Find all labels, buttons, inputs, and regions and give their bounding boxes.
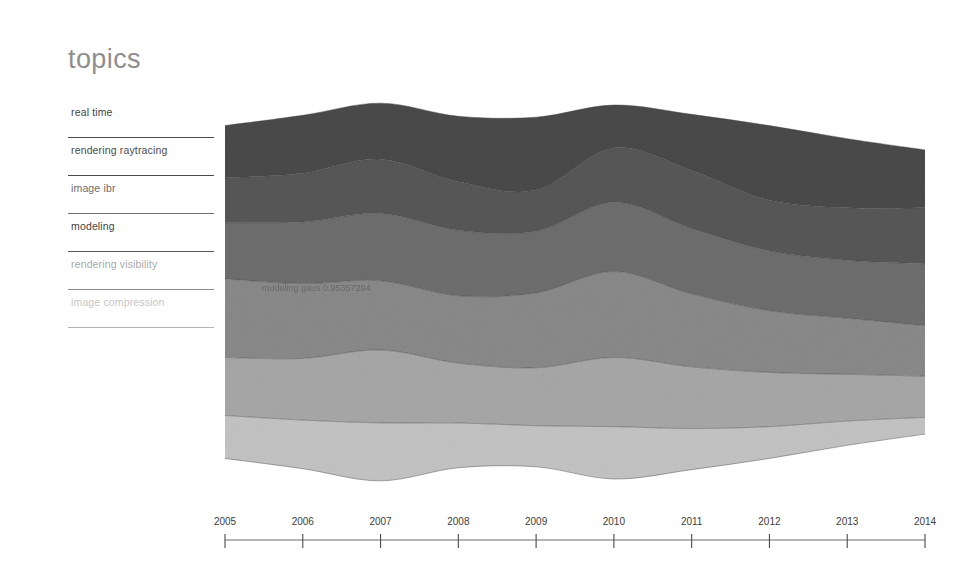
tick-label: 2008 — [447, 516, 470, 527]
tick-label: 2012 — [758, 516, 781, 527]
tick-label: 2010 — [603, 516, 626, 527]
tick-label: 2006 — [292, 516, 315, 527]
stream-annotation: modeling gaus 0.95357294 — [262, 283, 371, 293]
tick-label: 2009 — [525, 516, 548, 527]
tick-label: 2013 — [836, 516, 859, 527]
tick-label: 2014 — [914, 516, 937, 527]
tick-label: 2005 — [214, 516, 237, 527]
tick-label: 2011 — [681, 516, 703, 527]
streamgraph-page: topics real time rendering raytracing im… — [0, 0, 978, 586]
x-axis-ticks: 2005200620072008200920102011201220132014 — [214, 516, 937, 548]
tick-label: 2007 — [369, 516, 392, 527]
streamgraph-chart: modeling gaus 0.95357294 200520062007200… — [0, 0, 978, 586]
